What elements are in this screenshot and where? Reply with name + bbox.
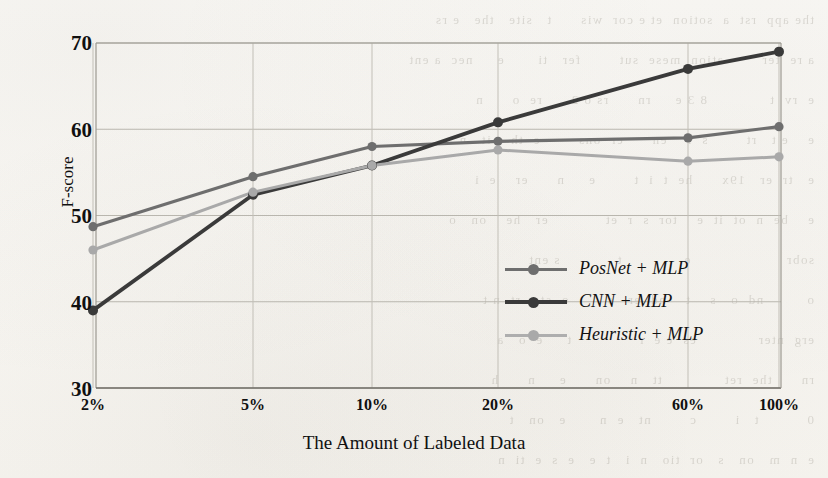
data-point-heuristic-mlp — [493, 145, 502, 154]
x-tick-100pct: 100% — [759, 396, 799, 414]
y-axis-label: F-score — [58, 122, 78, 242]
legend-item-heuristic-mlp: Heuristic + MLP — [505, 318, 760, 351]
legend-swatch-heuristic-mlp — [505, 328, 567, 342]
data-point-posnet-mlp — [248, 172, 257, 181]
x-tick-2pct: 2% — [81, 396, 105, 414]
data-point-heuristic-mlp — [683, 157, 692, 166]
legend-label: PosNet + MLP — [579, 258, 688, 279]
legend-marker-icon — [528, 297, 539, 308]
data-point-heuristic-mlp — [248, 188, 257, 197]
data-point-posnet-mlp — [367, 142, 376, 151]
x-tick-20pct: 20% — [482, 396, 514, 414]
legend-marker-icon — [528, 264, 539, 275]
line-chart: 70 60 50 40 30 2% 5% 10% 20% 60% 100% F-… — [0, 0, 828, 478]
data-point-cnn-mlp — [683, 64, 693, 74]
legend-label: Heuristic + MLP — [579, 324, 703, 345]
legend-item-cnn-mlp: CNN + MLP — [505, 285, 760, 318]
data-point-cnn-mlp — [493, 117, 503, 127]
x-tick-5pct: 5% — [241, 396, 265, 414]
legend-marker-icon — [528, 330, 539, 341]
y-tick-40: 40 — [40, 291, 92, 316]
data-point-posnet-mlp — [683, 133, 692, 142]
y-tick-70: 70 — [40, 31, 92, 56]
x-tick-60pct: 60% — [672, 396, 704, 414]
data-point-posnet-mlp — [493, 137, 502, 146]
data-point-heuristic-mlp — [774, 152, 783, 161]
data-point-heuristic-mlp — [367, 161, 376, 170]
data-point-posnet-mlp — [774, 122, 783, 131]
data-point-heuristic-mlp — [88, 245, 97, 254]
legend-label: CNN + MLP — [579, 291, 672, 312]
x-axis-label: The Amount of Labeled Data — [0, 432, 828, 454]
data-point-cnn-mlp — [774, 47, 784, 57]
legend-item-posnet-mlp: PosNet + MLP — [505, 252, 760, 285]
legend-swatch-cnn-mlp — [505, 295, 567, 309]
chart-legend: PosNet + MLP CNN + MLP Heuristic + MLP — [505, 252, 760, 351]
x-tick-10pct: 10% — [356, 396, 388, 414]
legend-swatch-posnet-mlp — [505, 262, 567, 276]
